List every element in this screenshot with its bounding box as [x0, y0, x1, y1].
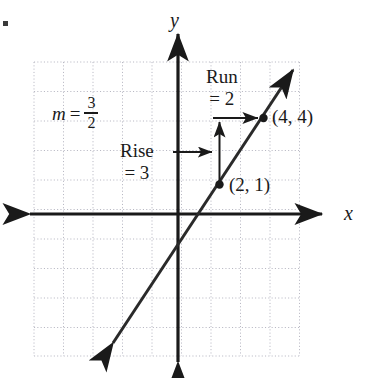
run-value: = 2: [209, 88, 234, 110]
rise-value: = 3: [124, 162, 149, 184]
slope-equals-sign: =: [70, 104, 81, 123]
slope-equation: m = 3 2: [52, 96, 98, 132]
coordinate-plane-svg: [0, 0, 368, 378]
plotted-line: [113, 70, 293, 343]
point-label-4-4: (4, 4): [272, 107, 313, 126]
point-marker-4-4: [259, 114, 267, 122]
slope-fraction: 3 2: [84, 95, 98, 131]
slope-diagram: y x m = 3 2 Rise = 3 Run = 2 (4, 4) (2, …: [0, 0, 368, 378]
run-annotation: Run = 2: [206, 66, 238, 111]
slope-variable: m: [52, 104, 66, 123]
point-marker-2-1: [215, 180, 223, 188]
rise-label: Rise: [120, 140, 154, 162]
slope-numerator: 3: [84, 95, 98, 111]
slope-denominator: 2: [84, 115, 98, 131]
x-axis-label: x: [344, 203, 353, 223]
point-label-2-1: (2, 1): [229, 175, 270, 194]
y-axis-label: y: [170, 10, 179, 30]
run-label: Run: [206, 66, 238, 88]
rise-annotation: Rise = 3: [120, 140, 154, 185]
